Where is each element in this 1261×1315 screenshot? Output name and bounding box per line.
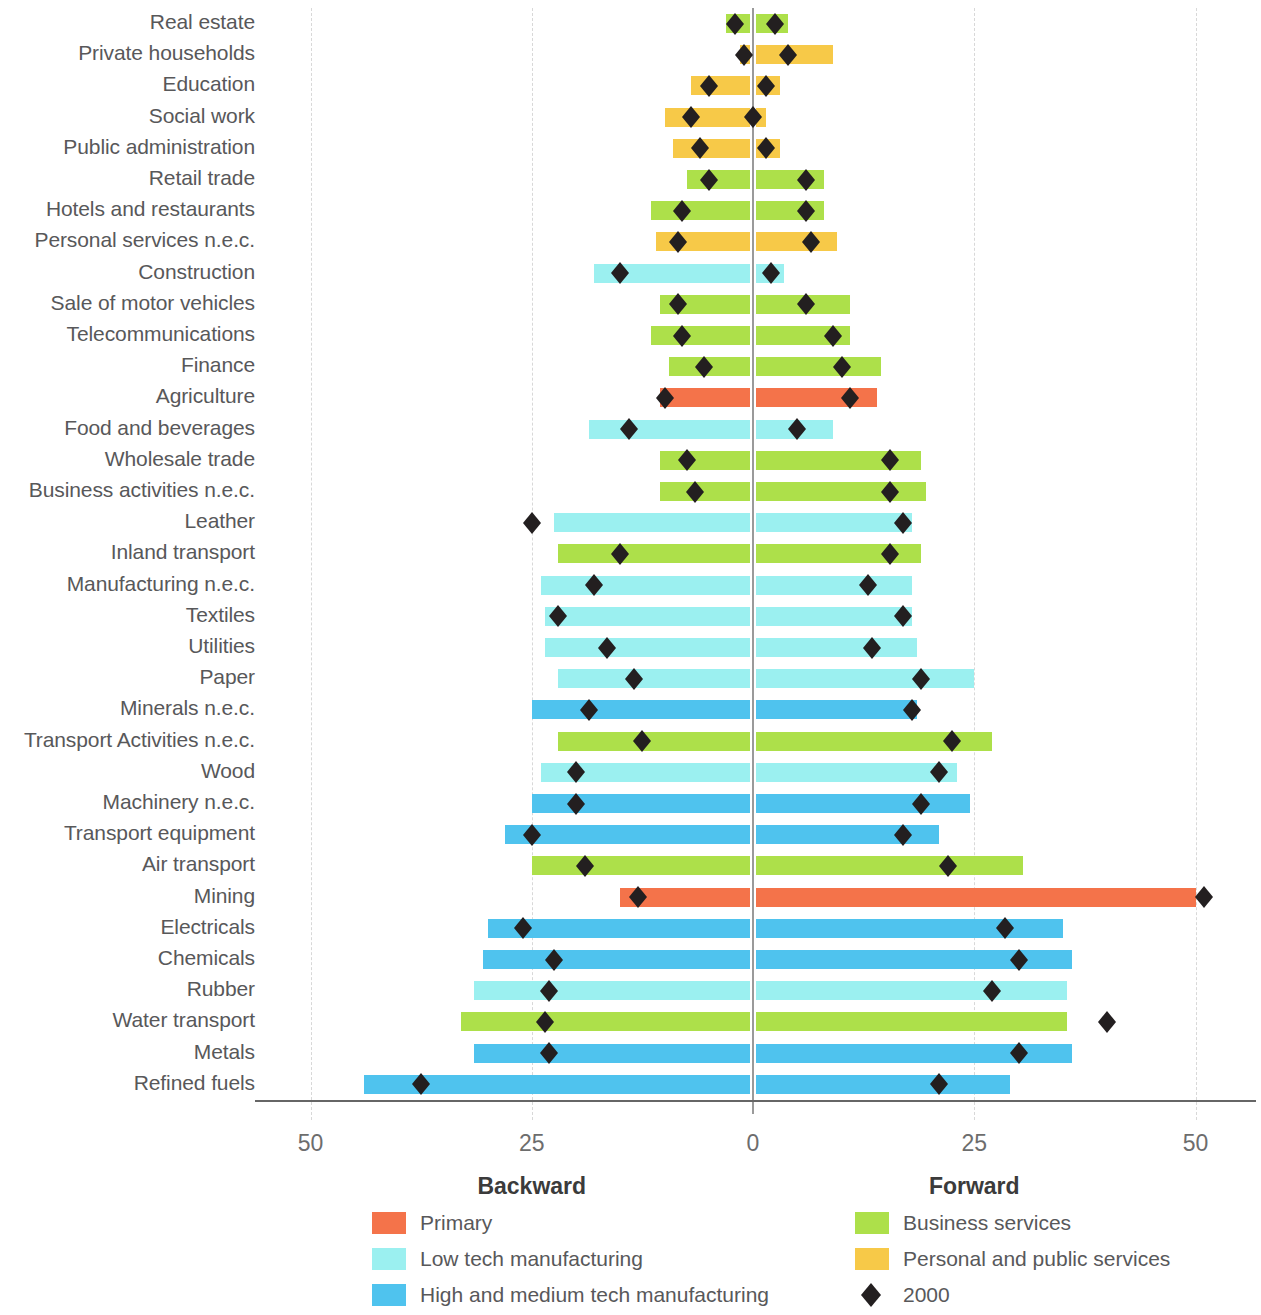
backward-bar	[483, 950, 750, 969]
category-label: Wood	[0, 755, 255, 786]
chart-row: Food and beverages	[0, 412, 1261, 443]
legend-swatch-icon	[855, 1212, 889, 1234]
category-label: Paper	[0, 661, 255, 692]
x-tick-label: 25	[961, 1130, 987, 1157]
backward-bar	[541, 576, 750, 595]
category-label: Sale of motor vehicles	[0, 287, 255, 318]
forward-bar	[756, 856, 1023, 875]
forward-bar	[756, 919, 1063, 938]
forward-bar	[756, 576, 912, 595]
legend-label: High and medium tech manufacturing	[420, 1283, 769, 1307]
diverging-bar-chart: Real estatePrivate householdsEducationSo…	[0, 0, 1261, 1315]
backward-bar	[589, 420, 750, 439]
category-label: Machinery n.e.c.	[0, 786, 255, 817]
legend-item[interactable]: Personal and public services	[855, 1244, 1170, 1274]
axis-baseline	[255, 1100, 1256, 1102]
chart-row: Hotels and restaurants	[0, 193, 1261, 224]
category-label: Private households	[0, 37, 255, 68]
legend-swatch-icon	[372, 1248, 406, 1270]
category-label: Education	[0, 68, 255, 99]
category-label: Public administration	[0, 131, 255, 162]
legend-item[interactable]: Business services	[855, 1208, 1071, 1238]
backward-bar	[660, 388, 750, 407]
chart-row: Utilities	[0, 630, 1261, 661]
category-label: Inland transport	[0, 536, 255, 567]
category-label: Finance	[0, 349, 255, 380]
backward-bar	[505, 825, 750, 844]
chart-row: Telecommunications	[0, 318, 1261, 349]
legend-item[interactable]: 2000	[855, 1280, 950, 1310]
category-label: Real estate	[0, 6, 255, 37]
category-label: Personal services n.e.c.	[0, 224, 255, 255]
backward-bar	[558, 732, 750, 751]
category-label: Utilities	[0, 630, 255, 661]
category-label: Telecommunications	[0, 318, 255, 349]
chart-row: Education	[0, 68, 1261, 99]
chart-row: Private households	[0, 37, 1261, 68]
category-label: Minerals n.e.c.	[0, 692, 255, 723]
category-label: Agriculture	[0, 380, 255, 411]
chart-row: Refined fuels	[0, 1067, 1261, 1098]
chart-row: Air transport	[0, 848, 1261, 879]
chart-legend: PrimaryLow tech manufacturingHigh and me…	[0, 1208, 1261, 1315]
category-label: Chemicals	[0, 942, 255, 973]
legend-item[interactable]: High and medium tech manufacturing	[372, 1280, 769, 1310]
forward-bar	[756, 1012, 1067, 1031]
legend-label: Primary	[420, 1211, 492, 1235]
forward-bar	[756, 357, 881, 376]
chart-row: Wholesale trade	[0, 443, 1261, 474]
legend-swatch-icon	[372, 1284, 406, 1306]
category-label: Transport Activities n.e.c.	[0, 724, 255, 755]
legend-label: Personal and public services	[903, 1247, 1170, 1271]
chart-row: Wood	[0, 755, 1261, 786]
category-label: Business activities n.e.c.	[0, 474, 255, 505]
axis-label-backward: Backward	[477, 1173, 586, 1200]
backward-bar	[558, 544, 750, 563]
chart-row: Transport equipment	[0, 817, 1261, 848]
chart-row: Retail trade	[0, 162, 1261, 193]
category-label: Water transport	[0, 1004, 255, 1035]
x-axis: 502502550BackwardForward	[0, 1118, 1261, 1208]
chart-row: Finance	[0, 349, 1261, 380]
chart-row: Business activities n.e.c.	[0, 474, 1261, 505]
chart-row: Manufacturing n.e.c.	[0, 568, 1261, 599]
backward-bar	[651, 201, 750, 220]
backward-bar	[651, 326, 750, 345]
forward-bar	[756, 232, 837, 251]
legend-item[interactable]: Low tech manufacturing	[372, 1244, 643, 1274]
backward-bar	[660, 451, 750, 470]
category-label: Manufacturing n.e.c.	[0, 568, 255, 599]
category-label: Leather	[0, 505, 255, 536]
category-label: Rubber	[0, 973, 255, 1004]
diamond-marker-icon	[855, 1284, 889, 1306]
forward-bar	[756, 888, 1196, 907]
category-label: Construction	[0, 256, 255, 287]
category-label: Transport equipment	[0, 817, 255, 848]
backward-bar	[474, 1044, 750, 1063]
chart-row: Inland transport	[0, 536, 1261, 567]
backward-bar	[687, 170, 750, 189]
legend-item[interactable]: Primary	[372, 1208, 492, 1238]
category-label: Retail trade	[0, 162, 255, 193]
legend-label: Low tech manufacturing	[420, 1247, 643, 1271]
legend-label: Business services	[903, 1211, 1071, 1235]
backward-bar	[532, 856, 750, 875]
backward-bar	[673, 139, 750, 158]
forward-bar	[756, 763, 957, 782]
legend-swatch-icon	[372, 1212, 406, 1234]
chart-row: Mining	[0, 880, 1261, 911]
category-label: Hotels and restaurants	[0, 193, 255, 224]
chart-row: Textiles	[0, 599, 1261, 630]
axis-label-forward: Forward	[929, 1173, 1020, 1200]
backward-bar	[532, 794, 750, 813]
x-tick-label: 25	[519, 1130, 545, 1157]
chart-row: Chemicals	[0, 942, 1261, 973]
forward-bar	[756, 482, 926, 501]
forward-bar	[756, 1075, 1010, 1094]
chart-row: Social work	[0, 100, 1261, 131]
category-label: Textiles	[0, 599, 255, 630]
forward-bar	[756, 700, 917, 719]
forward-bar	[756, 513, 912, 532]
chart-row: Paper	[0, 661, 1261, 692]
chart-row: Water transport	[0, 1004, 1261, 1035]
